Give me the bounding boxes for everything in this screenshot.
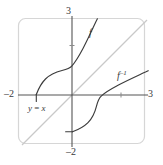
identity-line-label-equals: = (32, 103, 42, 113)
identity-line-label: y = x (28, 104, 46, 113)
x-axis-min-label: –2 (4, 89, 14, 99)
graph-figure: 3 –2 3 –2 f f–1 y = x (0, 0, 163, 165)
y-axis-max-label: 3 (66, 6, 71, 16)
identity-line-label-x: x (42, 103, 46, 113)
y-axis-min-label: –2 (66, 147, 76, 157)
plot-canvas (0, 0, 163, 165)
curve-f-inverse-label: f–1 (117, 70, 127, 81)
x-axis-max-label: 3 (148, 89, 153, 99)
curve-f-label: f (89, 28, 92, 38)
curve-f-inverse-label-exponent: –1 (120, 69, 127, 77)
